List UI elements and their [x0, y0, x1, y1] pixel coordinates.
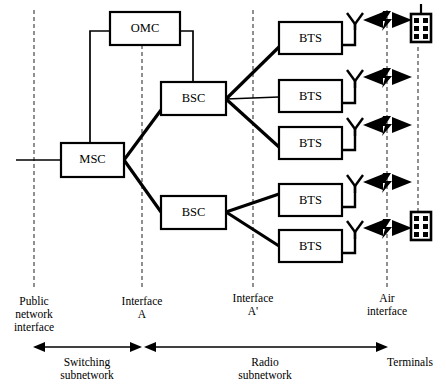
node-bts-5-label: BTS — [299, 239, 322, 253]
handset-key-icon — [423, 18, 428, 23]
scale-label-switching: Switching subnetwork — [60, 356, 114, 381]
antenna-3 — [347, 118, 363, 136]
handset-key-icon — [423, 224, 428, 229]
node-bsc-upper[interactable]: BSC — [161, 82, 226, 115]
antenna-arm-left-icon — [347, 13, 355, 24]
antenna-arm-left-icon — [347, 175, 355, 186]
node-bts-3[interactable]: BTS — [279, 127, 342, 159]
antenna-arm-right-icon — [355, 118, 363, 129]
node-bts-3-label: BTS — [299, 136, 322, 150]
label-interface-a: Interface A — [122, 295, 163, 320]
subnetwork-scale-bar: Switching subnetwork Radio subnetwork Te… — [33, 342, 433, 381]
arrow-right-icon — [392, 12, 412, 28]
feeder-bts-2 — [342, 79, 355, 103]
interface-labels: Public network interface Interface A Int… — [14, 292, 407, 333]
node-bts-2[interactable]: BTS — [279, 80, 342, 112]
antenna-arm-right-icon — [355, 13, 363, 24]
air-link-2 — [363, 68, 412, 88]
link-omc-to-bsc-upper — [180, 31, 193, 82]
antenna-arm-left-icon — [347, 70, 355, 81]
arrow-right-icon — [392, 174, 412, 190]
handset-key-icon — [423, 216, 428, 221]
node-bts-2-label: BTS — [299, 89, 322, 103]
handset-key-icon — [414, 18, 419, 23]
arrow-right-icon — [392, 69, 412, 85]
antenna-5 — [347, 221, 363, 239]
arrow-left-icon — [363, 220, 383, 236]
node-omc-label: OMC — [131, 21, 159, 35]
node-msc-label: MSC — [79, 152, 105, 166]
label-line: interface — [367, 305, 407, 317]
scale-label-radio: Radio subnetwork — [238, 356, 292, 381]
node-bsc-lower-label: BSC — [182, 205, 206, 219]
label-line: Interface — [122, 295, 163, 307]
feeder-bts-1 — [342, 22, 355, 45]
label-line: interface — [14, 321, 54, 333]
scale-label-terminals: Terminals — [387, 356, 433, 368]
label-line: Terminals — [387, 356, 433, 368]
link-bsc-upper-to-bts-2 — [226, 97, 279, 99]
handset-key-icon — [423, 26, 428, 31]
antenna-arm-right-icon — [355, 70, 363, 81]
label-line: Radio — [251, 356, 279, 368]
feeder-bts-3 — [342, 127, 355, 150]
gsm-architecture-diagram: OMC MSC BSC BSC BTS BTS — [0, 0, 446, 392]
handset-key-icon — [414, 26, 419, 31]
label-air-interface: Air interface — [367, 292, 407, 317]
label-public-network-interface: Public network interface — [14, 295, 54, 333]
arrow-left-icon — [144, 342, 156, 352]
arrow-right-icon — [130, 342, 142, 352]
label-line: network — [15, 308, 53, 320]
handset-key-icon — [414, 34, 419, 39]
antenna-arm-right-icon — [355, 175, 363, 186]
label-line: subnetwork — [60, 369, 114, 381]
arrow-right-icon — [392, 220, 412, 236]
network-nodes: OMC MSC BSC BSC BTS BTS — [61, 12, 342, 262]
handset-key-icon — [414, 232, 419, 237]
diagram-canvas: OMC MSC BSC BSC BTS BTS — [0, 0, 446, 392]
handset-key-icon — [414, 216, 419, 221]
node-bsc-upper-label: BSC — [182, 91, 206, 105]
label-line: Interface — [233, 292, 274, 304]
label-line: A' — [248, 305, 258, 317]
node-bts-5[interactable]: BTS — [279, 230, 342, 262]
label-line: Public — [19, 295, 48, 307]
label-interface-a-prime: Interface A' — [233, 292, 274, 317]
handset-key-icon — [423, 232, 428, 237]
node-bts-4[interactable]: BTS — [279, 184, 342, 216]
terminal-lower — [411, 212, 431, 240]
antenna-arm-left-icon — [347, 118, 355, 129]
handset-key-icon — [423, 34, 428, 39]
arrow-right-icon — [392, 117, 412, 133]
link-bsc-lower-to-bts-5 — [226, 212, 279, 246]
label-line: A — [138, 308, 147, 320]
antenna-2 — [347, 70, 363, 88]
node-bsc-lower[interactable]: BSC — [161, 196, 226, 229]
antenna-4 — [347, 175, 363, 193]
node-bts-4-label: BTS — [299, 193, 322, 207]
node-bts-1-label: BTS — [299, 31, 322, 45]
antenna-arm-left-icon — [347, 221, 355, 232]
node-omc[interactable]: OMC — [110, 12, 180, 45]
terminals — [411, 4, 431, 240]
label-line: Switching — [64, 356, 111, 369]
arrow-left-icon — [33, 342, 45, 352]
arrow-left-icon — [363, 69, 383, 85]
label-line: Air — [379, 292, 395, 304]
arrow-right-icon — [376, 342, 388, 352]
label-line: subnetwork — [238, 369, 292, 381]
node-bts-1[interactable]: BTS — [279, 22, 342, 54]
antenna-1 — [347, 13, 363, 30]
feeder-bts-5 — [342, 230, 355, 253]
arrow-left-icon — [363, 174, 383, 190]
arrow-left-icon — [363, 117, 383, 133]
handset-key-icon — [414, 224, 419, 229]
node-msc[interactable]: MSC — [61, 143, 124, 177]
arrow-left-icon — [363, 12, 383, 28]
antenna-arm-right-icon — [355, 221, 363, 232]
air-link-4 — [363, 173, 412, 193]
link-omc-to-msc — [90, 31, 110, 143]
terminal-upper — [411, 4, 431, 42]
feeder-bts-4 — [342, 184, 355, 207]
